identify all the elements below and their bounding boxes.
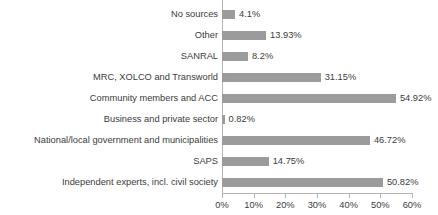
bar-row: Other 13.93% [0,25,438,46]
category-label: SAPS [193,151,218,172]
bar-value-label: 31.15% [325,73,357,82]
category-label: National/local government and municipali… [34,130,218,151]
bar-row: Community members and ACC 54.92% [0,88,438,109]
plot-area: No sources 4.1% Other 13.93% SANRAL 8.2% [0,0,438,190]
bar-container: 4.1% [222,4,260,25]
axis-tick-label: 50% [371,200,390,210]
bar [222,157,269,166]
bar-value-label: 8.2% [252,52,273,61]
bar [222,94,396,103]
bar [222,115,225,124]
bar-value-label: 50.82% [387,178,419,187]
bar-container: 14.75% [222,151,304,172]
bar [222,31,266,40]
axis-tick-label: 0% [215,200,228,210]
axis-tick [380,193,381,198]
axis-tick-label: 20% [276,200,295,210]
bar-row: SANRAL 8.2% [0,46,438,67]
bar [222,178,383,187]
bar-container: 8.2% [222,46,273,67]
axis-tick-label: 10% [244,200,263,210]
category-label: MRC, XOLCO and Transworld [93,67,218,88]
bar-value-label: 13.93% [270,31,302,40]
bar-row: No sources 4.1% [0,4,438,25]
bar-value-label: 46.72% [374,136,406,145]
bar-container: 54.92% [222,88,431,109]
bar-row: Business and private sector 0.82% [0,109,438,130]
bar [222,73,321,82]
axis-tick [285,193,286,198]
bar [222,10,235,19]
bar [222,52,248,61]
bar-row: SAPS 14.75% [0,151,438,172]
category-label: SANRAL [181,46,218,67]
bar-row: MRC, XOLCO and Transworld 31.15% [0,67,438,88]
bar-container: 31.15% [222,67,356,88]
bar-value-label: 4.1% [239,10,260,19]
category-label: No sources [171,4,218,25]
bar-container: 50.82% [222,172,418,193]
bar-value-label: 0.82% [229,115,255,124]
axis-tick-label: 60% [403,200,422,210]
bar-container: 46.72% [222,130,405,151]
category-label: Community members and ACC [90,88,218,109]
bar-value-label: 14.75% [273,157,305,166]
axis-tick [254,193,255,198]
axis-tick [349,193,350,198]
horizontal-bar-chart: No sources 4.1% Other 13.93% SANRAL 8.2% [0,0,438,215]
axis-tick-label: 40% [339,200,358,210]
bar-container: 0.82% [222,109,255,130]
bar [222,136,370,145]
category-label: Other [195,25,218,46]
bar-row: National/local government and municipali… [0,130,438,151]
bar-container: 13.93% [222,25,302,46]
axis-tick-label: 30% [308,200,327,210]
category-label: Independent experts, incl. civil society [62,172,218,193]
bar-value-label: 54.92% [400,94,432,103]
axis-tick [222,193,223,198]
category-label: Business and private sector [104,109,218,130]
axis-tick [412,193,413,198]
axis-tick [317,193,318,198]
bar-row: Independent experts, incl. civil society… [0,172,438,193]
